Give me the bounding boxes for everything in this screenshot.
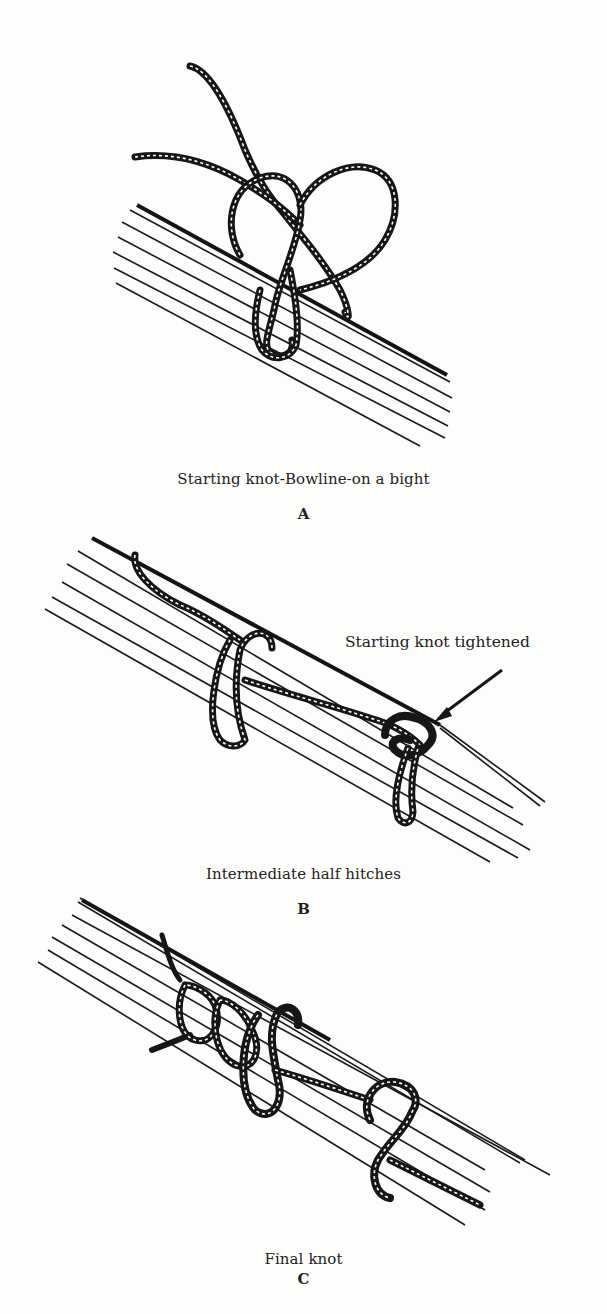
figure-b-illustration	[0, 520, 607, 870]
intermediate-half-hitches-drawing	[0, 520, 607, 870]
figure-a-illustration	[0, 0, 607, 470]
callout-arrow	[434, 670, 502, 722]
starting-knot-callout: Starting knot tightened	[345, 633, 530, 651]
pole-bundle-b	[45, 538, 545, 862]
figure-c-label: C	[0, 1270, 607, 1288]
figure-b-caption: Intermediate half hitches	[0, 865, 607, 883]
final-knot-drawing	[0, 890, 607, 1250]
figure-c-illustration	[0, 890, 607, 1250]
figure-c-caption: Final knot	[0, 1250, 607, 1268]
figure-a-caption: Starting knot-Bowline-on a bight	[0, 470, 607, 488]
pole-bundle-a	[113, 205, 452, 446]
bowline-on-bight-drawing	[0, 0, 607, 470]
rope-b	[135, 555, 433, 823]
pole-bundle-c	[38, 898, 550, 1225]
